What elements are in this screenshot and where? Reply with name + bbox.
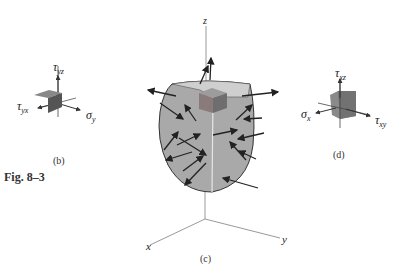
figure-number: Fig. 8–3 — [4, 170, 45, 185]
stress-element-cube — [199, 88, 227, 113]
label-z-axis: z — [203, 16, 207, 26]
label-y-axis: y — [282, 234, 287, 245]
sigma-y-arrow — [60, 104, 80, 110]
x-axis — [150, 219, 205, 245]
panel-d — [316, 79, 370, 128]
y-axis — [205, 219, 280, 238]
caption-b: (b) — [53, 155, 65, 166]
label-x-axis: x — [146, 241, 151, 252]
label-sigma-y: σy — [86, 109, 95, 124]
figure-canvas — [0, 0, 399, 267]
label-tau-xz: τxz — [335, 67, 346, 82]
label-tau-xy: τxy — [375, 114, 386, 129]
label-tau-yx: τyx — [17, 100, 28, 115]
panel-c — [148, 26, 280, 245]
label-sigma-x: σx — [301, 108, 310, 123]
caption-c: (c) — [200, 253, 211, 264]
caption-d: (d) — [333, 149, 345, 160]
label-tau-yz: τyz — [53, 61, 64, 76]
